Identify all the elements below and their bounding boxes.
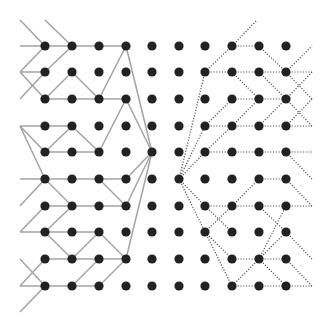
grid-node — [254, 67, 263, 76]
solid-edge — [72, 232, 99, 259]
grid-node — [200, 201, 209, 210]
grid-node — [94, 94, 103, 103]
grid-node — [121, 174, 130, 183]
grid-node — [227, 174, 236, 183]
grid-node — [121, 41, 130, 50]
dotted-edge — [259, 232, 286, 259]
grid-node — [40, 147, 49, 156]
grid-node — [174, 174, 183, 183]
grid-node — [121, 121, 130, 130]
grid-node — [67, 201, 76, 210]
grid-node — [200, 147, 209, 156]
grid-node — [147, 147, 156, 156]
grid-node — [200, 254, 209, 263]
dotted-edge — [232, 179, 259, 206]
dotted-edge — [259, 206, 286, 232]
solid-edge — [72, 126, 99, 152]
solid-edge — [72, 259, 99, 286]
grid-node — [67, 67, 76, 76]
grid-node — [174, 41, 183, 50]
dotted-edge — [232, 259, 259, 286]
grid-node — [147, 94, 156, 103]
grid-node — [67, 41, 76, 50]
dotted-edge — [179, 152, 205, 179]
solid-edge — [20, 46, 45, 72]
grid-node — [147, 254, 156, 263]
lattice-diagram — [0, 0, 330, 331]
grid-node — [227, 227, 236, 236]
grid-node — [174, 147, 183, 156]
solid-edge — [20, 126, 45, 152]
grid-node — [121, 147, 130, 156]
dotted-edge — [286, 46, 312, 72]
left-tree-solid-edges — [20, 20, 152, 312]
grid-node — [254, 281, 263, 290]
grid-node — [174, 254, 183, 263]
dotted-edge — [232, 20, 257, 46]
grid-node — [40, 227, 49, 236]
grid-node — [227, 147, 236, 156]
grid-node — [94, 41, 103, 50]
grid-node — [254, 147, 263, 156]
solid-edge — [45, 232, 72, 259]
grid-node — [147, 227, 156, 236]
dotted-edge — [205, 126, 232, 152]
grid-node — [121, 227, 130, 236]
grid-node — [174, 227, 183, 236]
grid-node — [254, 227, 263, 236]
grid-node — [121, 254, 130, 263]
solid-edge — [20, 206, 45, 232]
grid-node — [174, 121, 183, 130]
dotted-edge — [232, 99, 259, 126]
dotted-edge — [259, 99, 286, 126]
grid-node — [40, 67, 49, 76]
grid-node — [40, 174, 49, 183]
right-tree-dotted-edges — [179, 20, 312, 286]
grid-node — [281, 41, 290, 50]
grid-node — [281, 121, 290, 130]
grid-node — [67, 94, 76, 103]
solid-edge — [20, 179, 45, 206]
grid-node — [174, 67, 183, 76]
dotted-edge — [286, 232, 312, 259]
grid-node — [200, 94, 209, 103]
grid-node — [281, 254, 290, 263]
dotted-edge — [259, 259, 286, 286]
solid-edge — [99, 232, 126, 259]
grid-node — [147, 121, 156, 130]
dotted-edge — [232, 72, 259, 99]
solid-edge — [45, 179, 72, 206]
grid-node — [94, 227, 103, 236]
grid-node — [67, 121, 76, 130]
solid-edge — [45, 206, 72, 232]
dotted-edge — [286, 259, 312, 286]
grid-node — [94, 121, 103, 130]
grid-node — [147, 67, 156, 76]
grid-node — [121, 201, 130, 210]
grid-node — [40, 201, 49, 210]
grid-node — [40, 94, 49, 103]
grid-node — [40, 281, 49, 290]
grid-node — [200, 174, 209, 183]
grid-node — [200, 281, 209, 290]
grid-node — [94, 147, 103, 156]
grid-node — [67, 147, 76, 156]
grid-node — [174, 201, 183, 210]
grid-node — [147, 201, 156, 210]
grid-node — [174, 94, 183, 103]
grid-node — [281, 227, 290, 236]
grid-node — [147, 174, 156, 183]
grid-node — [254, 94, 263, 103]
grid-node — [281, 281, 290, 290]
solid-edge — [20, 20, 45, 46]
dotted-edge — [259, 72, 286, 99]
grid-node — [254, 41, 263, 50]
solid-edge — [45, 72, 72, 99]
grid-node — [94, 281, 103, 290]
grid-node — [121, 94, 130, 103]
grid-node — [281, 201, 290, 210]
grid-node — [174, 281, 183, 290]
grid-node — [200, 67, 209, 76]
solid-edge — [20, 286, 45, 312]
dotted-edge — [205, 232, 232, 259]
